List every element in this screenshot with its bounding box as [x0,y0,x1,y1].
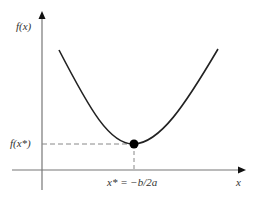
minimum-point [130,140,139,149]
diagram-canvas [0,0,260,202]
y-axis-label: f(x) [16,20,31,32]
parabola-diagram: f(x) f(x*) x* = −b/2a x [0,0,260,202]
x-star-label: x* = −b/2a [107,176,157,188]
x-axis-arrow-icon [238,167,246,174]
x-axis-label: x [236,176,241,188]
y-axis-arrow-icon [39,11,46,19]
fx-star-label: f(x*) [10,137,31,149]
parabola-curve [59,49,218,144]
